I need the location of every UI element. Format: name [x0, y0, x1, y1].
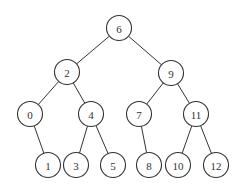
- tree-node-0: 0: [18, 102, 43, 127]
- tree-node-8: 8: [137, 153, 162, 178]
- tree-node-1: 1: [36, 153, 61, 178]
- node-label: 4: [88, 109, 94, 121]
- node-label: 8: [146, 160, 152, 172]
- node-label: 12: [211, 160, 222, 172]
- tree-edge-11-12: [201, 126, 212, 154]
- tree-edge-2-0: [38, 81, 58, 104]
- tree-node-6: 6: [107, 16, 132, 41]
- node-label: 6: [116, 23, 122, 35]
- binary-tree-diagram: 6290471113581012: [0, 0, 239, 194]
- tree-edge-7-8: [141, 126, 146, 152]
- node-label: 1: [45, 160, 51, 172]
- tree-node-3: 3: [64, 153, 89, 178]
- tree-node-4: 4: [79, 102, 104, 127]
- tree-node-9: 9: [159, 61, 184, 86]
- tree-edge-9-7: [147, 83, 164, 104]
- node-label: 11: [191, 109, 202, 121]
- tree-edge-6-2: [77, 36, 110, 64]
- tree-nodes: 6290471113581012: [18, 16, 229, 178]
- node-label: 9: [168, 68, 174, 80]
- node-label: 2: [64, 67, 70, 79]
- node-label: 3: [73, 160, 79, 172]
- tree-edge-6-9: [128, 36, 161, 65]
- tree-edges: [34, 36, 211, 153]
- tree-node-7: 7: [127, 102, 152, 127]
- node-label: 5: [110, 160, 116, 172]
- tree-edge-11-10: [182, 126, 192, 153]
- tree-edge-4-5: [96, 125, 108, 153]
- tree-edge-2-4: [73, 83, 85, 103]
- node-label: 10: [173, 160, 185, 172]
- tree-edge-0-1: [34, 126, 44, 153]
- tree-node-5: 5: [101, 153, 126, 178]
- tree-edge-4-3: [80, 126, 88, 153]
- tree-node-11: 11: [184, 102, 209, 127]
- node-label: 7: [136, 109, 142, 121]
- tree-node-12: 12: [204, 153, 229, 178]
- tree-node-10: 10: [166, 153, 191, 178]
- tree-edge-9-11: [178, 84, 190, 104]
- node-label: 0: [27, 109, 33, 121]
- tree-node-2: 2: [55, 60, 80, 85]
